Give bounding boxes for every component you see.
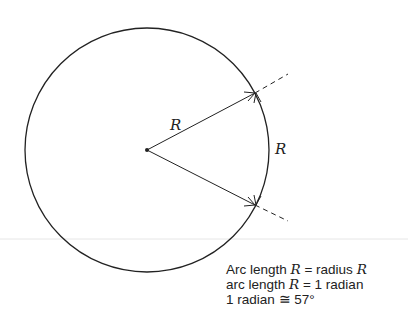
caption-line-1: Arc length R = radius R [226, 262, 367, 277]
radius-label: R [169, 116, 181, 134]
arrowhead-upper-icon [244, 92, 255, 101]
caption-line-2: arc length R = 1 radian [226, 277, 367, 292]
dashed-extension-lower [255, 205, 288, 221]
dashed-extension-upper [255, 74, 288, 93]
caption: Arc length R = radius R arc length R = 1… [226, 262, 367, 307]
arc-label: R [274, 140, 286, 158]
caption-line-3: 1 radian ≅ 57° [226, 292, 367, 307]
arrowhead-lower-icon [244, 197, 255, 206]
radius-upper [147, 93, 255, 150]
radius-lower [147, 150, 255, 205]
